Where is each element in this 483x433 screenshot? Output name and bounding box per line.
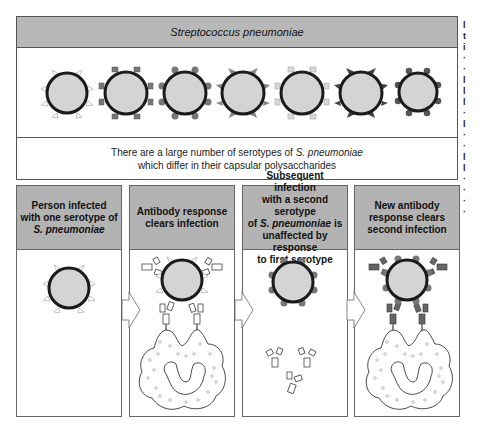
panel-second-infection: Subsequent infection with a second serot… <box>242 185 348 417</box>
panel-4-line-2: response clears <box>367 212 446 224</box>
panel-4-heading: New antibody response clears second infe… <box>355 186 459 250</box>
panel-1-line-2: with one serotype of <box>20 212 117 224</box>
phagocytosis-illustration-2 <box>355 250 459 416</box>
arrow-right-icon <box>346 290 366 330</box>
arrow-right-icon <box>234 290 254 330</box>
panel-3-heading: Subsequent infection with a second serot… <box>243 186 347 250</box>
panel-1-body <box>17 250 121 416</box>
figure-title-text: Streptococcus pneumoniae <box>170 26 303 38</box>
serotype-row <box>17 48 457 138</box>
panel-4-line-1: New antibody <box>367 200 446 212</box>
panel-3-species: S. pneumoniae <box>260 218 331 229</box>
panel-2-body <box>130 250 234 416</box>
panel-first-infection: Person infected with one serotype of S. … <box>16 185 122 417</box>
panel-2-line-2: clears infection <box>137 218 228 230</box>
panel-2-line-1: Antibody response <box>137 206 228 218</box>
arrow-right-icon <box>121 290 141 330</box>
serotype-3-bacterium <box>159 67 212 120</box>
panel-3-line-2: with a second serotype <box>246 194 344 218</box>
panel-1-species: S. pneumoniae <box>33 224 104 235</box>
serotype-illustrations <box>17 48 457 138</box>
panel-1-heading: Person infected with one serotype of S. … <box>17 186 121 250</box>
panel-antibody-response: Antibody response clears infection <box>129 185 235 417</box>
serotype-1-bacterium <box>41 70 93 118</box>
panel-new-antibody-response: New antibody response clears second infe… <box>354 185 460 417</box>
panel-4-body <box>355 250 459 416</box>
panel-3-body <box>243 250 347 416</box>
caption-text: There are a large number of serotypes of <box>111 147 296 158</box>
infected-bacterium-illustration <box>17 250 121 416</box>
caption-species: S. pneumoniae <box>296 147 363 158</box>
caption-line-1: There are a large number of serotypes of… <box>111 146 363 159</box>
panel-3-line-1: Subsequent infection <box>246 170 344 194</box>
panel-3-line-3-suffix: is <box>331 218 342 229</box>
unbound-antibodies-illustration <box>243 250 347 416</box>
panel-4-line-3: second infection <box>367 224 446 236</box>
panel-2-heading: Antibody response clears infection <box>130 186 234 250</box>
serotype-7-bacterium <box>395 68 442 117</box>
serotype-6-bacterium <box>334 68 388 118</box>
serotype-caption: There are a large number of serotypes of… <box>16 137 458 180</box>
phagocytosis-illustration-1 <box>130 250 234 416</box>
serotype-4-bacterium <box>216 68 270 118</box>
figure-title: Streptococcus pneumoniae <box>16 16 458 48</box>
panel-3-line-3: of S. pneumoniae is <box>246 218 344 230</box>
truncated-side-caption: l t i · · l l l · l · · l l · · · · <box>463 20 483 240</box>
serotype-5-bacterium <box>275 67 329 119</box>
panel-1-line-1: Person infected <box>20 200 117 212</box>
serotype-2-bacterium <box>99 67 153 119</box>
panel-3-line-3-prefix: of <box>248 218 260 229</box>
